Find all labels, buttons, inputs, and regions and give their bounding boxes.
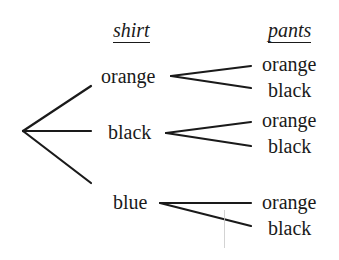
tree-diagram: shirt pants orange black blue orange bla… xyxy=(0,0,339,260)
branch-black-shirt-to-black-pants xyxy=(166,133,251,146)
branch-orange-shirt-to-black-pants xyxy=(171,76,251,88)
pants-node-black-orange: orange xyxy=(262,110,316,130)
branch-orange-shirt-to-orange-pants xyxy=(171,66,251,76)
pants-node-orange-orange: orange xyxy=(262,54,316,74)
shirt-node-black: black xyxy=(108,122,151,142)
pants-node-black-black: black xyxy=(268,136,311,156)
header-pants: pants xyxy=(268,20,311,43)
branch-black-shirt-to-orange-pants xyxy=(166,122,251,133)
pants-node-blue-orange: orange xyxy=(262,192,316,212)
branch-blue-shirt-to-black-pants xyxy=(160,203,251,226)
shirt-node-blue: blue xyxy=(113,192,147,212)
branch-root-to-orange-shirt xyxy=(23,86,91,131)
header-shirt: shirt xyxy=(113,20,150,43)
pants-node-orange-black: black xyxy=(268,80,311,100)
pants-node-blue-black: black xyxy=(268,218,311,238)
shirt-node-orange: orange xyxy=(101,66,155,86)
branch-root-to-blue-shirt xyxy=(23,131,91,183)
